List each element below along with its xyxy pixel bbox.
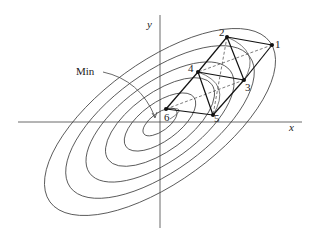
point-2-marker (225, 35, 229, 39)
point-3-label: 3 (245, 81, 251, 93)
point-1-label: 1 (275, 38, 281, 50)
min-label: Min (76, 65, 95, 77)
point-4-marker (196, 70, 200, 74)
y-axis-label: y (146, 18, 152, 30)
point-4-label: 4 (188, 62, 194, 74)
x-axis-label: x (288, 121, 294, 133)
point-6-label: 6 (164, 111, 170, 123)
point-2-label: 2 (219, 26, 225, 38)
point-1-marker (270, 43, 274, 47)
reflection-arcs (166, 37, 250, 119)
point-5-label: 5 (214, 112, 220, 124)
simplex-diagram: 1 2 3 4 5 6 y x Min (0, 0, 313, 228)
